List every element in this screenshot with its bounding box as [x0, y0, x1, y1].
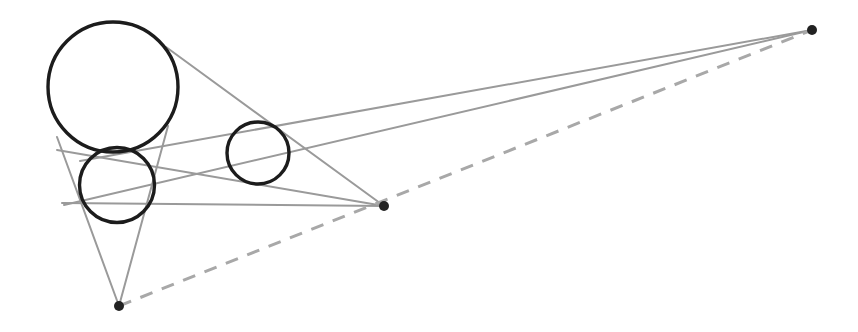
- geometry-figure: [0, 0, 858, 332]
- homothety-center-bottom: [114, 301, 124, 311]
- diagram-canvas: [0, 0, 858, 332]
- homothety-center-middle: [379, 201, 389, 211]
- homothety-center-right: [807, 25, 817, 35]
